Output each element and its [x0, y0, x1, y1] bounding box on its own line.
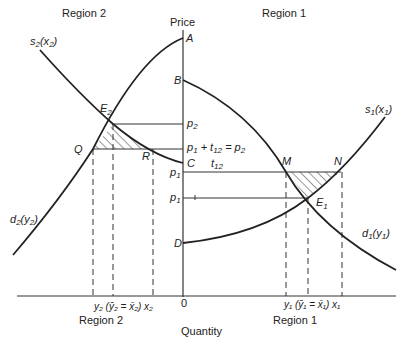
region1-bottom-title: Region 1: [273, 314, 317, 326]
s2-label: s2(x2): [30, 35, 58, 49]
point-E1: E1: [316, 196, 328, 211]
t12-label: t12: [211, 157, 224, 171]
p2-label: p2: [186, 117, 198, 131]
point-A: A: [185, 32, 193, 44]
point-M: M: [282, 155, 292, 167]
point-R: R: [142, 150, 150, 162]
point-D: D: [174, 237, 182, 249]
p1-lower-label: p1: [169, 191, 181, 205]
origin-label: 0: [181, 297, 187, 309]
s1-curve: [183, 117, 385, 243]
region1-top-title: Region 1: [262, 7, 306, 19]
p1-plus-t12-label: p1 + t12 = p2: [186, 141, 246, 155]
point-N: N: [334, 155, 342, 167]
s1-label: s1(x1): [365, 103, 393, 117]
region1-quantity-labels: y₁ (ȳ₁ = x̄₁) x₁: [283, 299, 340, 310]
price-axis-label: Price: [170, 16, 195, 28]
region2-quantity-labels: y₂ (ȳ₂ = x̄₂) x₂: [93, 301, 153, 312]
region2-bottom-title: Region 2: [79, 314, 123, 326]
point-Q: Q: [74, 143, 83, 155]
d2-label: d2(y2): [10, 213, 38, 227]
p1-upper-label: p1: [169, 166, 181, 180]
region2-top-title: Region 2: [62, 7, 106, 19]
d1-label: d1(y1): [362, 227, 390, 241]
trade-equilibrium-diagram: Region 2 Region 1 Price 0 Region 2 Regio…: [0, 0, 406, 344]
quantity-axis-label: Quantity: [181, 325, 222, 337]
point-C: C: [187, 157, 195, 169]
point-B: B: [174, 74, 181, 86]
